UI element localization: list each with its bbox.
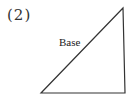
right-triangle — [0, 0, 131, 96]
triangle-outline — [41, 8, 125, 93]
hypotenuse-label: Base — [59, 37, 80, 48]
